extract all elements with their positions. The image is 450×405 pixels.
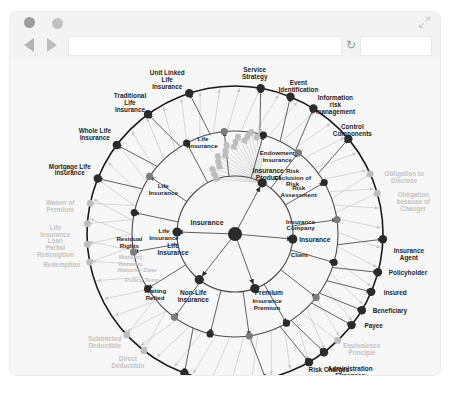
node-middle-ring[interactable] [246,332,253,339]
graph-edge [235,234,293,239]
node-fan-item[interactable] [216,164,222,170]
graph-edge [318,139,348,174]
graph-label: SubtractedDeductible [88,335,121,349]
node-fan-item[interactable] [222,153,228,159]
node-middle-ring[interactable] [206,330,213,337]
node-middle-ring[interactable] [295,149,302,156]
node-fan-item[interactable] [209,166,215,172]
node-middle-ring[interactable] [131,209,138,216]
graph-edge [119,146,146,180]
node-insurance[interactable] [288,234,297,243]
node-outer-ring[interactable] [185,89,193,97]
node-middle-ring[interactable] [171,314,178,321]
node-fan-item[interactable] [222,147,228,153]
graph-label: Policy Term [125,276,160,283]
node-fan-item[interactable] [215,153,221,159]
node-outer-ring[interactable] [86,259,93,266]
url-input[interactable] [73,37,307,57]
node-middle-ring[interactable] [321,179,328,186]
graph-edge [296,108,314,150]
node-middle-ring[interactable] [333,216,340,223]
node-middle-ring[interactable] [283,320,290,327]
graph-edge [301,313,338,341]
page-content: InsuranceInsuranceProductLifeInsuranceNo… [10,58,440,375]
node-middle-ring[interactable] [313,294,320,301]
node-outer-ring[interactable] [374,190,381,197]
graph-label: Mortgage LifeInsurance [49,163,91,177]
graph-label: TraditionalLifeInsurance [114,92,147,113]
graph-label: PartialRedemption [37,244,74,259]
graph-edge [317,299,340,337]
node-middle-ring[interactable] [330,259,337,266]
graph-label: Payee [364,322,383,330]
node-outer-ring[interactable] [84,241,91,248]
node-outer-ring[interactable] [87,200,94,207]
node-outer-ring[interactable] [123,332,130,339]
node-outer-ring[interactable] [367,170,374,177]
graph-label: Policyholder [389,269,428,277]
browser-titlebar [10,12,440,32]
node-fan-item[interactable] [211,171,217,177]
node-fan-item[interactable] [235,134,241,140]
graph-edge [177,232,235,234]
graph-edge [90,219,131,234]
node-outer-ring[interactable] [84,220,91,227]
node-outer-ring[interactable] [358,306,366,314]
graph-edge [319,293,361,310]
window-dot-dark-icon[interactable] [24,17,35,28]
node-outer-ring[interactable] [374,268,382,276]
node-outer-ring[interactable] [180,369,188,375]
browser-window: ↻ [10,12,440,375]
graph-edge [232,338,244,375]
graph-label: MaturityBenefits [119,253,144,267]
node-middle-ring[interactable] [260,131,267,138]
graph-edge [174,333,202,367]
node-outer-ring[interactable] [286,93,294,101]
graph-edge [227,88,239,130]
expand-icon[interactable] [418,16,431,29]
node-non-life-insurance[interactable] [195,275,204,284]
graph-edge [90,203,136,205]
graph-edge [193,336,216,374]
search-bar[interactable] [360,36,432,56]
node-outer-ring[interactable] [305,358,313,366]
graph-label: Insured [384,289,407,296]
node-outer-ring[interactable] [94,174,102,182]
graph-edge [235,186,260,234]
node-outer-ring[interactable] [347,321,355,329]
graph-label: Whole LifeInsurance [79,127,112,141]
node-insurance-core[interactable] [228,227,242,241]
graph-edge [336,193,378,212]
node-fan-item[interactable] [248,129,254,135]
graph-edge [148,114,180,146]
graph-edge [147,118,164,158]
graph-label: LifeInsurance [149,182,179,196]
node-middle-ring[interactable] [221,128,228,135]
graph-edge [269,102,297,136]
node-fan-item[interactable] [215,158,221,164]
address-bar[interactable]: ↻ [68,36,342,56]
graph-edge [305,137,344,157]
graph-edge [202,234,235,277]
search-input[interactable] [365,37,429,57]
graph-edge [338,247,377,267]
forward-arrow-icon[interactable] [47,38,57,52]
graph-edge [99,180,135,206]
graph-edge [338,219,381,228]
node-outer-ring[interactable] [256,84,264,92]
node-outer-ring[interactable] [113,141,121,149]
node-middle-ring[interactable] [146,173,153,180]
node-outer-ring[interactable] [320,348,328,356]
node-outer-ring[interactable] [140,347,147,354]
node-outer-ring[interactable] [334,337,341,344]
node-outer-ring[interactable] [379,235,387,243]
node-outer-ring[interactable] [367,288,375,296]
graph-edge [332,174,370,199]
reload-icon[interactable]: ↻ [346,39,359,52]
graph-edge [249,336,265,375]
graph-edge [235,234,253,285]
node-fan-item[interactable] [224,142,230,148]
window-dot-light-icon[interactable] [52,18,63,29]
graph-edge [93,199,132,220]
back-arrow-icon[interactable] [24,38,34,52]
